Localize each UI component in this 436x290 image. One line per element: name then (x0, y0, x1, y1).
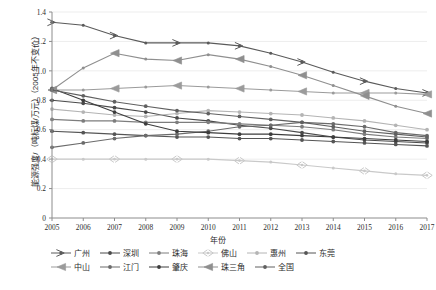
svg-text:2010: 2010 (201, 223, 216, 232)
legend-label: 深圳 (123, 247, 139, 258)
svg-text:2006: 2006 (76, 223, 91, 232)
legend-label: 广州 (74, 247, 90, 258)
legend-marker-icon (295, 248, 317, 258)
legend-item-珠海[interactable]: 珠海 (148, 246, 188, 259)
x-axis-title: 年份 (0, 234, 436, 245)
legend-marker-icon (99, 248, 121, 258)
legend-label: 肇庆 (172, 261, 188, 272)
legend-item-全国[interactable]: 全国 (254, 260, 294, 273)
svg-text:0: 0 (42, 214, 46, 223)
svg-text:2015: 2015 (357, 223, 372, 232)
legend-label: 惠州 (270, 247, 286, 258)
legend-marker-icon (50, 248, 72, 258)
series-6 (48, 82, 432, 98)
legend-marker-icon (148, 248, 170, 258)
legend-marker-icon (197, 248, 219, 258)
series-lines (47, 19, 432, 179)
svg-text:2012: 2012 (263, 223, 278, 232)
legend-label: 佛山 (221, 247, 237, 258)
legend-marker-icon (148, 262, 170, 272)
legend-label: 珠海 (172, 247, 188, 258)
legend-marker-icon (50, 262, 72, 272)
svg-text:2011: 2011 (232, 223, 247, 232)
legend-marker-icon (197, 262, 219, 272)
legend-marker-icon (246, 248, 268, 258)
legend-item-东莞[interactable]: 东莞 (295, 246, 335, 259)
y-axis-title: 能源强度/（吨标煤/万元）（2005年不变价） (29, 10, 40, 210)
chart-legend: 广州深圳珠海佛山惠州东莞中山江门肇庆珠三角全国 (50, 246, 390, 273)
svg-text:2014: 2014 (326, 223, 341, 232)
svg-text:2008: 2008 (138, 223, 153, 232)
legend-item-肇庆[interactable]: 肇庆 (148, 260, 188, 273)
legend-marker-icon (254, 262, 276, 272)
legend-item-深圳[interactable]: 深圳 (99, 246, 139, 259)
legend-item-惠州[interactable]: 惠州 (246, 246, 286, 259)
legend-item-佛山[interactable]: 佛山 (197, 246, 237, 259)
legend-item-中山[interactable]: 中山 (50, 260, 90, 273)
svg-text:2005: 2005 (45, 223, 60, 232)
energy-intensity-chart: 2005200620072008200920102011201220132014… (0, 0, 436, 290)
svg-text:2013: 2013 (295, 223, 310, 232)
grid-lines (49, 12, 427, 218)
legend-item-广州[interactable]: 广州 (50, 246, 90, 259)
legend-item-珠三角[interactable]: 珠三角 (197, 260, 245, 273)
legend-label: 东莞 (319, 247, 335, 258)
legend-label: 全国 (278, 261, 294, 272)
legend-label: 中山 (74, 261, 90, 272)
legend-label: 珠三角 (221, 261, 245, 272)
svg-text:2016: 2016 (388, 223, 403, 232)
legend-marker-icon (99, 262, 121, 272)
legend-label: 江门 (123, 261, 139, 272)
svg-text:2007: 2007 (107, 223, 122, 232)
x-tick-labels: 2005200620072008200920102011201220132014… (45, 218, 435, 232)
legend-item-江门[interactable]: 江门 (99, 260, 139, 273)
svg-text:2017: 2017 (420, 223, 435, 232)
svg-text:2009: 2009 (170, 223, 185, 232)
